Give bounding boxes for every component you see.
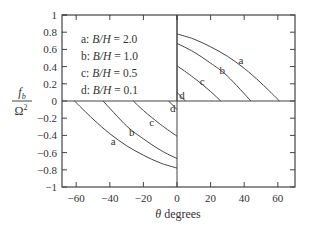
legend-entry-d: d: B/H = 0.1	[81, 84, 138, 96]
curve-label: a	[238, 54, 243, 66]
x-tick-label: 60	[272, 192, 284, 204]
legend-entry-c: c: B/H = 0.5	[81, 67, 138, 79]
x-tick-label: 0	[174, 192, 180, 204]
y-tick-label: −0.6	[37, 147, 57, 159]
x-tick-labels: −60−40−200204060	[68, 192, 284, 204]
curve-label: d	[170, 102, 176, 114]
curve-label: a	[111, 135, 116, 147]
y-tick-label: −0.2	[37, 112, 57, 124]
curve-a-negative	[75, 101, 177, 168]
svg-text:Ω2: Ω2	[15, 103, 28, 118]
x-tick-label: −40	[101, 192, 119, 204]
curve-label: c	[200, 75, 205, 87]
x-tick-label: 40	[239, 192, 251, 204]
x-tick-label: −20	[135, 192, 153, 204]
y-tick-label: −0.8	[37, 164, 57, 176]
x-tick-label: −60	[68, 192, 86, 204]
y-tick-label: 0	[52, 95, 58, 107]
legend-entry-a: a: B/H = 2.0	[81, 33, 138, 45]
y-tick-label: 0.8	[43, 26, 57, 38]
curve-label: b	[129, 126, 135, 138]
y-tick-label: 0.6	[43, 43, 57, 55]
curve-label: b	[220, 64, 226, 76]
y-tick-label: 0.2	[43, 78, 57, 90]
curve-b-negative	[103, 101, 177, 159]
curve-label: c	[149, 116, 154, 128]
y-tick-label: 0.4	[43, 61, 57, 73]
legend-entry-b: b: B/H = 1.0	[81, 50, 138, 62]
legend: a: B/H = 2.0b: B/H = 1.0c: B/H = 0.5d: B…	[62, 15, 177, 101]
curve-label: d	[179, 89, 185, 101]
y-tick-label: 1	[52, 9, 58, 21]
y-axis-label: fbΩ2	[12, 85, 32, 118]
chart: −60−40−200204060 −1−0.8−0.6−0.4−0.200.20…	[0, 0, 309, 229]
svg-text:fb: fb	[18, 85, 25, 101]
y-tick-label: −1	[45, 181, 57, 193]
curve-b-positive	[177, 43, 251, 101]
x-tick-label: 20	[205, 192, 217, 204]
y-tick-labels: −1−0.8−0.6−0.4−0.200.20.40.60.81	[37, 9, 57, 193]
x-axis-label: θ degrees	[155, 207, 201, 221]
curve-a-positive	[177, 34, 279, 101]
y-tick-label: −0.4	[37, 129, 57, 141]
